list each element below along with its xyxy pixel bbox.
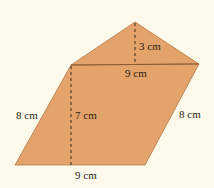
triangle-height-label: 3 cm [139,40,161,52]
right-side-label: 8 cm [179,108,201,120]
parallelogram-height-label: 7 cm [75,109,97,121]
bottom-base-label: 9 cm [75,169,97,181]
composite-shape-diagram: 3 cm 9 cm 8 cm 7 cm 8 cm 9 cm [0,0,214,188]
left-side-label: 8 cm [16,109,38,121]
parallelogram [15,64,199,165]
shared-base-label: 9 cm [125,67,147,79]
